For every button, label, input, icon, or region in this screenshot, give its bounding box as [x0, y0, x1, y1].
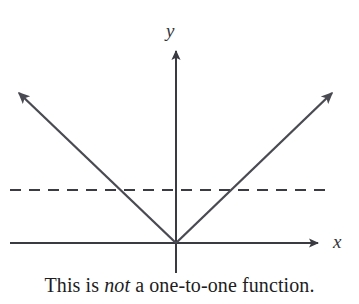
caption-suffix: a one-to-one function.: [130, 274, 314, 296]
graph-canvas: [0, 0, 359, 304]
figure-caption: This is not a one-to-one function.: [0, 274, 359, 296]
caption-emphasis: not: [104, 274, 130, 296]
caption-prefix: This is: [44, 274, 104, 296]
function-right-arm: [176, 93, 332, 243]
absolute-value-function-figure: y x This is not a one-to-one function.: [0, 0, 359, 304]
x-axis-label: x: [333, 232, 341, 251]
function-left-arm: [19, 93, 176, 243]
y-axis-label: y: [166, 21, 174, 40]
